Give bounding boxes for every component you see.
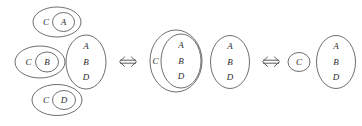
set-equivalence-diagram: C A C B A B D C D <box>0 0 362 126</box>
label-a-abd-right: A <box>332 41 339 51</box>
label-d-abd-left: D <box>82 72 90 82</box>
group-c-right: C <box>288 53 310 72</box>
label-c-outer-cabd: C <box>152 56 159 66</box>
label-c-right: C <box>296 57 303 67</box>
stage-right: C A B D <box>288 36 356 89</box>
group-cb: C B <box>15 46 65 78</box>
outer-ellipse-ca <box>33 7 81 37</box>
label-d-cabd: D <box>177 71 185 81</box>
equivalence-arrow-1 <box>120 57 137 66</box>
label-d-abd-middle: D <box>226 72 234 82</box>
label-c-outer-cd: C <box>43 95 50 105</box>
label-a-cabd: A <box>177 40 184 50</box>
group-ca: C A <box>33 7 81 37</box>
group-abd-right: A B D <box>317 36 356 89</box>
label-b-abd-middle: B <box>227 57 233 67</box>
label-d-abd-right: D <box>332 72 340 82</box>
label-c-outer-cb: C <box>25 57 32 67</box>
diagram-canvas: C A C B A B D C D <box>0 0 362 126</box>
label-b-abd-left: B <box>83 57 89 67</box>
label-b-inner-cb: B <box>44 57 50 67</box>
group-abd-left: A B D <box>66 35 106 89</box>
stage-left: C A C B A B D C D <box>15 7 106 116</box>
stage-middle: C A B D A B D <box>150 30 250 92</box>
label-b-cabd: B <box>178 56 184 66</box>
outer-ellipse-cd <box>32 85 82 116</box>
label-a-abd-left: A <box>82 41 89 51</box>
group-abd-middle: A B D <box>211 36 250 89</box>
label-a-inner-ca: A <box>60 17 67 27</box>
label-b-abd-right: B <box>333 57 339 67</box>
outer-ellipse-cb <box>15 46 65 78</box>
label-c-outer-ca: C <box>43 17 50 27</box>
group-c-abd: C A B D <box>150 30 202 92</box>
label-d-inner-cd: D <box>60 95 68 105</box>
label-a-abd-middle: A <box>226 41 233 51</box>
equivalence-arrow-2 <box>263 57 280 66</box>
group-cd: C D <box>32 85 82 116</box>
